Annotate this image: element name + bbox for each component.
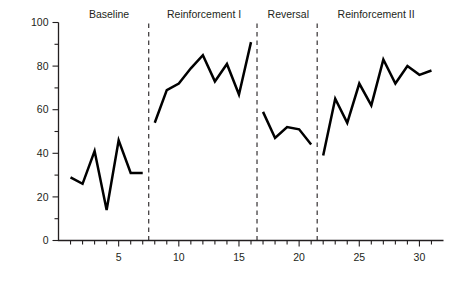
phase-label: Reinforcement I xyxy=(167,8,241,20)
y-tick-label: 40 xyxy=(37,147,49,159)
series-segment xyxy=(263,112,311,145)
x-tick-label: 20 xyxy=(293,251,305,263)
chart-figure: 020406080100 51015202530 BaselineReinfor… xyxy=(0,0,466,283)
phase-label: Reversal xyxy=(268,8,309,20)
x-tick-label: 15 xyxy=(233,251,245,263)
x-tick-label: 10 xyxy=(173,251,185,263)
phase-labels: BaselineReinforcement IReversalReinforce… xyxy=(89,8,415,20)
y-tick-label: 100 xyxy=(31,16,49,28)
y-tick-label: 80 xyxy=(37,60,49,72)
phase-label: Reinforcement II xyxy=(338,8,415,20)
y-tick-label: 60 xyxy=(37,103,49,115)
axis-spine xyxy=(59,23,444,241)
phase-divider-lines xyxy=(149,24,317,241)
data-series-line xyxy=(71,42,432,210)
y-tick-label: 0 xyxy=(43,234,49,246)
series-segment xyxy=(155,42,251,123)
x-axis-tick-labels: 51015202530 xyxy=(116,251,426,263)
x-tick-label: 25 xyxy=(353,251,365,263)
series-segment xyxy=(323,60,431,156)
line-chart-svg: 020406080100 51015202530 BaselineReinfor… xyxy=(0,0,466,283)
x-tick-label: 30 xyxy=(414,251,426,263)
y-axis-tick-labels: 020406080100 xyxy=(31,16,49,246)
phase-label: Baseline xyxy=(89,8,129,20)
x-tick-label: 5 xyxy=(116,251,122,263)
series-segment xyxy=(71,140,143,210)
y-tick-label: 20 xyxy=(37,191,49,203)
